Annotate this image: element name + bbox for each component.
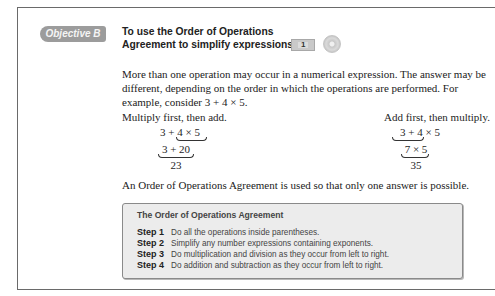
example-right-label: Add first, then multiply. [384,111,490,123]
rule-step-3: Step 3Do multiplication and division as … [137,249,389,260]
step-text: Simplify any number expressions containi… [171,239,373,248]
right-brace-1 [392,137,424,141]
rule-step-4: Step 4Do addition and subtraction as the… [137,260,383,271]
step-label: Step 2 [137,238,171,248]
rule-step-1: Step 1Do all the operations inside paren… [137,227,319,238]
order-of-operations-box: The Order of Operations Agreement Step 1… [122,203,463,279]
left-brace-1 [176,137,207,141]
objective-badge: Objective B [40,26,106,42]
example-left-label: Multiply first, then add. [122,111,227,123]
video-icon[interactable]: 1 [291,39,315,51]
objective-title-line2: Agreement to simplify expressions [122,39,293,52]
step-label: Step 1 [137,227,171,237]
left-result: 23 [160,158,192,172]
right-expr-part-b: × 5 [423,126,440,138]
objective-title: To use the Order of Operations Agreement… [122,26,293,51]
step-text: Do addition and subtraction as they occu… [171,261,383,270]
step-text: Do all the operations inside parentheses… [171,228,319,237]
video-icon-number: 1 [301,40,305,50]
right-result: 35 [400,158,432,172]
intro-paragraph: More than one operation may occur in a n… [122,67,494,109]
summary-paragraph: An Order of Operations Agreement is used… [122,178,494,192]
step-label: Step 3 [137,249,171,259]
objective-title-line1: To use the Order of Operations [122,26,293,39]
left-expr-part-a: 3 + [160,126,177,138]
rules-box-title: The Order of Operations Agreement [137,210,283,220]
rule-step-2: Step 2Simplify any number expressions co… [137,238,373,249]
cd-icon[interactable] [323,35,341,53]
step-text: Do multiplication and division as they o… [171,250,389,259]
step-label: Step 4 [137,260,171,270]
